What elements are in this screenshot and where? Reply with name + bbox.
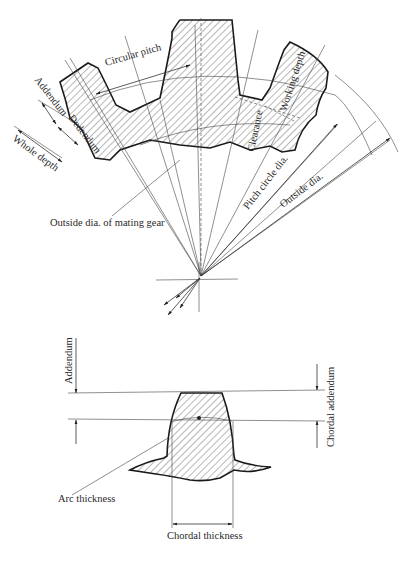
chordal-addendum-label: Chordal addendum <box>325 367 336 447</box>
arc-thickness-label: Arc thickness <box>58 493 115 504</box>
figure-canvas: Circular pitch Addendum Dedendum Whole d… <box>0 0 419 567</box>
outside-circle-arc <box>335 75 398 152</box>
whole-depth-label: Whole depth <box>11 133 62 174</box>
bottom-addendum-label: Addendum <box>63 337 74 384</box>
circular-pitch-label: Circular pitch <box>104 41 164 68</box>
chordal-thickness-label: Chordal thickness <box>167 530 243 541</box>
bottom-tooth-diagram: Addendum Chordal addendum Chordal thickn… <box>58 337 336 541</box>
outside-dia-mating-label: Outside dia. of mating gear <box>50 217 165 228</box>
outside-dia-line <box>201 138 390 276</box>
tooth-section <box>130 393 271 481</box>
gear-nomenclature-figure: Circular pitch Addendum Dedendum Whole d… <box>0 0 419 567</box>
mating-gear-leader <box>112 160 180 216</box>
top-gear-diagram: Circular pitch Addendum Dedendum Whole d… <box>11 18 398 315</box>
